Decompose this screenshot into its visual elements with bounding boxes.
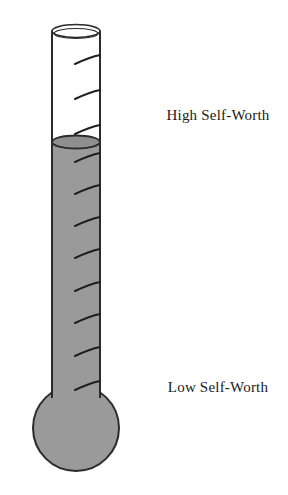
tube-filled-section — [52, 142, 100, 400]
high-self-worth-label: High Self-Worth — [166, 107, 269, 123]
thermometer-graphic: High Self-Worth Low Self-Worth — [0, 0, 288, 495]
liquid-surface-ellipse — [52, 136, 100, 149]
thermometer-figure: High Self-Worth Low Self-Worth — [0, 0, 288, 495]
tube-empty-section — [52, 31, 100, 142]
tube-rim-outer-ellipse — [52, 25, 100, 38]
low-self-worth-label: Low Self-Worth — [168, 379, 269, 395]
